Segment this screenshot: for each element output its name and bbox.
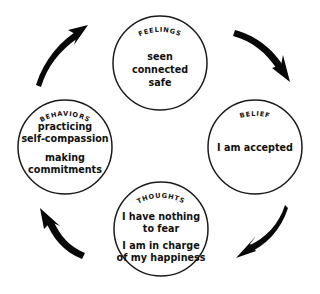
belief-line-1: I am accepted	[217, 142, 293, 153]
feelings-line-3: safe	[149, 77, 172, 88]
node-behaviors[interactable]: BEHAVIORS practicing self-compassion mak…	[18, 100, 112, 194]
cycle-diagram: FEELINGS seen connected safe BELIEF I am…	[0, 0, 320, 294]
behaviors-line-3: making	[45, 152, 85, 163]
behaviors-line-2: self-compassion	[21, 133, 108, 144]
thoughts-line-2: to fear	[143, 223, 180, 234]
cycle-diagram-canvas: FEELINGS seen connected safe BELIEF I am…	[0, 0, 320, 294]
thoughts-line-1: I have nothing	[122, 211, 200, 222]
arrow-feelings-to-belief	[233, 30, 290, 82]
arrow-thoughts-to-behaviors	[40, 208, 85, 259]
feelings-line-1: seen	[147, 51, 173, 62]
arrow-belief-to-thoughts	[236, 205, 288, 258]
thoughts-line-4: of my happiness	[117, 252, 206, 263]
node-feelings[interactable]: FEELINGS seen connected safe	[113, 16, 207, 110]
behaviors-line-4: commitments	[28, 164, 102, 175]
node-thoughts[interactable]: THOUGHTS I have nothing to fear I am in …	[114, 182, 208, 276]
node-belief[interactable]: BELIEF I am accepted	[208, 100, 302, 194]
arrow-behaviors-to-feelings	[36, 25, 88, 87]
feelings-line-2: connected	[132, 64, 188, 75]
thoughts-line-3: I am in charge	[122, 240, 200, 251]
behaviors-line-1: practicing	[38, 121, 92, 132]
